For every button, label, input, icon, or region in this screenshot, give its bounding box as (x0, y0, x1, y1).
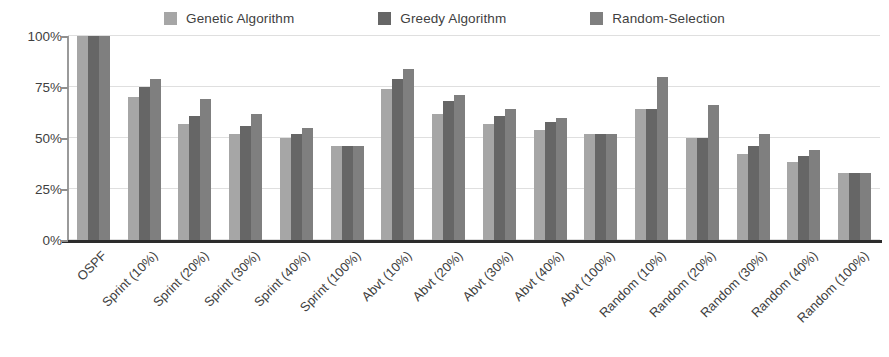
x-axis-tick-label: OSPF (74, 248, 110, 284)
bar[interactable] (646, 109, 657, 240)
bar[interactable] (302, 128, 313, 240)
bar[interactable] (534, 130, 545, 240)
legend-swatch-icon (164, 12, 177, 25)
bar[interactable] (331, 146, 342, 240)
bar[interactable] (392, 79, 403, 240)
bar[interactable] (200, 99, 211, 240)
bar[interactable] (584, 134, 595, 240)
bar[interactable] (838, 173, 849, 240)
bar[interactable] (748, 146, 759, 240)
bar-group (178, 36, 211, 240)
legend-label: Random-Selection (612, 11, 725, 26)
y-axis-tick-label: 50% (6, 131, 62, 146)
y-axis-tick-mark (61, 138, 68, 140)
bar[interactable] (737, 154, 748, 240)
legend-item-genetic-algorithm[interactable]: Genetic Algorithm (164, 11, 294, 26)
y-axis-tick-mark (61, 240, 68, 242)
bar[interactable] (708, 105, 719, 240)
bar[interactable] (494, 116, 505, 240)
bar[interactable] (798, 156, 809, 240)
bar[interactable] (556, 118, 567, 240)
legend-swatch-icon (378, 12, 391, 25)
bar[interactable] (189, 116, 200, 240)
bar[interactable] (595, 134, 606, 240)
bar[interactable] (139, 87, 150, 240)
bar[interactable] (99, 36, 110, 240)
bar[interactable] (178, 124, 189, 240)
chart-legend: Genetic AlgorithmGreedy AlgorithmRandom-… (0, 6, 889, 30)
bar-group (584, 36, 617, 240)
bar[interactable] (635, 109, 646, 240)
bar[interactable] (860, 173, 871, 240)
bar-group (128, 36, 161, 240)
bar[interactable] (432, 114, 443, 240)
x-axis-tick-label: Abvt (30%) (460, 248, 516, 304)
bar[interactable] (291, 134, 302, 240)
bar-group (381, 36, 414, 240)
bar-group (331, 36, 364, 240)
bar[interactable] (657, 77, 668, 240)
legend-swatch-icon (590, 12, 603, 25)
bar-group (280, 36, 313, 240)
bar-group (787, 36, 820, 240)
bar[interactable] (483, 124, 494, 240)
bar[interactable] (403, 69, 414, 240)
bar[interactable] (77, 36, 88, 240)
bar[interactable] (454, 95, 465, 240)
bar-group (483, 36, 516, 240)
y-axis-tick-mark (61, 36, 68, 38)
y-axis-tick-label: 75% (6, 80, 62, 95)
bar[interactable] (251, 114, 262, 240)
y-axis-tick-label: 25% (6, 182, 62, 197)
bar[interactable] (787, 162, 798, 240)
bar[interactable] (686, 138, 697, 240)
legend-label: Genetic Algorithm (186, 11, 294, 26)
legend-item-greedy-algorithm[interactable]: Greedy Algorithm (378, 11, 506, 26)
bars-layer (68, 36, 880, 240)
bar[interactable] (809, 150, 820, 240)
bar-group (838, 36, 871, 240)
x-axis-tick-label: Abvt (20%) (409, 248, 465, 304)
bar[interactable] (280, 138, 291, 240)
bar-group (737, 36, 770, 240)
bar[interactable] (606, 134, 617, 240)
y-axis-tick-mark (61, 189, 68, 191)
bar-group (635, 36, 668, 240)
legend-label: Greedy Algorithm (400, 11, 506, 26)
x-axis-tick-label: Abvt (10%) (358, 248, 414, 304)
bar[interactable] (545, 122, 556, 240)
bar[interactable] (150, 79, 161, 240)
bar[interactable] (128, 97, 139, 240)
x-axis-labels: OSPFSprint (10%)Sprint (20%)Sprint (30%)… (0, 240, 889, 357)
bar[interactable] (759, 134, 770, 240)
bar[interactable] (505, 109, 516, 240)
y-axis-tick-label: 100% (6, 29, 62, 44)
bar[interactable] (229, 134, 240, 240)
bar-group (534, 36, 567, 240)
bar[interactable] (240, 126, 251, 240)
bar[interactable] (443, 101, 454, 240)
bar-group (432, 36, 465, 240)
bar-chart: Genetic AlgorithmGreedy AlgorithmRandom-… (0, 0, 889, 357)
bar[interactable] (353, 146, 364, 240)
bar[interactable] (697, 138, 708, 240)
bar-group (229, 36, 262, 240)
bar-group (686, 36, 719, 240)
bar[interactable] (381, 89, 392, 240)
bar-group (77, 36, 110, 240)
y-axis-tick-mark (61, 87, 68, 89)
legend-item-random-selection[interactable]: Random-Selection (590, 11, 725, 26)
bar[interactable] (849, 173, 860, 240)
bar[interactable] (342, 146, 353, 240)
bar[interactable] (88, 36, 99, 240)
